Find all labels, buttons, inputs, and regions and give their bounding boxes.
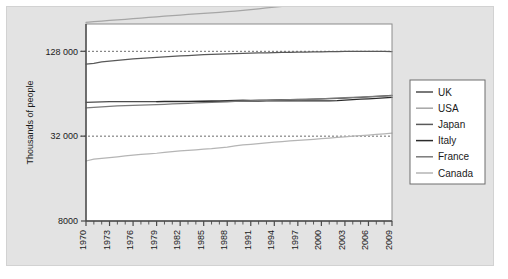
- x-tick-label: 1985: [196, 230, 206, 250]
- legend-label-japan: Japan: [438, 119, 465, 130]
- y-tick-label: 128 000: [45, 47, 78, 57]
- x-tick-label: 1982: [172, 230, 182, 250]
- x-tick-label: 1997: [290, 230, 300, 250]
- legend-label-italy: Italy: [438, 135, 456, 146]
- y-axis-title: Thousands of people: [25, 80, 35, 164]
- x-tick-label: 2003: [337, 230, 347, 250]
- figure-canvas: 128 00032 0008000 1970197319761979198219…: [0, 0, 508, 279]
- series-line-usa: [86, 7, 392, 22]
- chart-svg: 128 00032 0008000 1970197319761979198219…: [7, 7, 495, 267]
- x-tick-label: 2000: [313, 230, 323, 250]
- x-tick-label: 1973: [102, 230, 112, 250]
- legend-label-canada: Canada: [438, 168, 473, 179]
- x-tick-label: 2009: [384, 230, 394, 250]
- x-tick-label: 2006: [360, 230, 370, 250]
- x-tick-label: 1988: [219, 230, 229, 250]
- y-tick-label: 8000: [58, 216, 78, 226]
- x-tick-label: 1976: [125, 230, 135, 250]
- y-tick-label: 32 000: [50, 131, 78, 141]
- x-tick-label: 1991: [243, 230, 253, 250]
- x-tick-label: 1970: [78, 230, 88, 250]
- chart-panel: 128 00032 0008000 1970197319761979198219…: [6, 6, 494, 266]
- legend: UKUSAJapanItalyFranceCanada: [410, 80, 485, 184]
- y-axis-ticks: 128 00032 0008000: [45, 47, 86, 227]
- x-tick-label: 1979: [149, 230, 159, 250]
- legend-label-usa: USA: [438, 103, 459, 114]
- legend-label-france: France: [438, 151, 470, 162]
- x-tick-label: 1994: [266, 230, 276, 250]
- y-axis-title-text: Thousands of people: [25, 80, 35, 164]
- legend-label-uk: UK: [438, 87, 452, 98]
- x-axis-ticks: 1970197319761979198219851988199119941997…: [78, 221, 394, 250]
